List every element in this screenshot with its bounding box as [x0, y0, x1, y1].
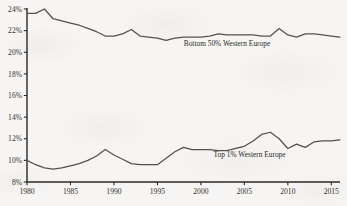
- chart-axes: [27, 8, 340, 182]
- x-axis-tick-label: 1980: [19, 187, 34, 196]
- y-axis-tick-label: 20%: [8, 48, 23, 57]
- x-axis-tick-label: 1995: [150, 187, 165, 196]
- x-axis-tick-label: 1985: [63, 187, 78, 196]
- y-axis-tick-label: 14%: [8, 113, 23, 122]
- series-annotation-top-1-western-europe: Top 1% Western Europe: [214, 150, 287, 159]
- x-axis-tick-label: 2015: [324, 187, 339, 196]
- y-axis-tick-label: 10%: [8, 156, 23, 165]
- y-axis-tick-label: 24%: [8, 5, 23, 14]
- chart-page: 8%10%12%14%16%18%20%22%24%19801985199019…: [0, 0, 347, 206]
- x-axis-tick-label: 1990: [106, 187, 121, 196]
- series-line-bottom-50-western-europe: [27, 9, 340, 40]
- y-axis-tick-label: 8%: [12, 178, 23, 187]
- series-annotation-bottom-50-western-europe: Bottom 50% Western Europe: [184, 39, 271, 48]
- x-axis-tick-label: 2005: [237, 187, 252, 196]
- line-chart: 8%10%12%14%16%18%20%22%24%19801985199019…: [0, 0, 347, 206]
- y-axis-tick-label: 22%: [8, 26, 23, 35]
- y-axis-tick-label: 18%: [8, 70, 23, 79]
- x-axis-tick-label: 2010: [280, 187, 295, 196]
- y-axis-tick-label: 16%: [8, 91, 23, 100]
- x-axis-tick-label: 2000: [193, 187, 208, 196]
- y-axis-tick-label: 12%: [8, 134, 23, 143]
- series-line-top-1-western-europe: [27, 132, 340, 169]
